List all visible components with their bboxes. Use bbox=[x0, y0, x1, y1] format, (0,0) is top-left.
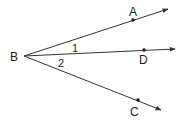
point-c bbox=[136, 98, 140, 102]
angle-diagram: B A D C 1 2 bbox=[0, 0, 182, 126]
angle-2-label: 2 bbox=[58, 57, 64, 69]
label-d: D bbox=[139, 53, 148, 67]
point-d bbox=[142, 48, 146, 52]
ray-ba bbox=[24, 9, 168, 56]
ray-bd bbox=[24, 48, 175, 56]
angle-1-label: 1 bbox=[72, 42, 78, 54]
label-a: A bbox=[129, 5, 137, 19]
label-b: B bbox=[10, 50, 18, 64]
label-c: C bbox=[130, 105, 139, 119]
